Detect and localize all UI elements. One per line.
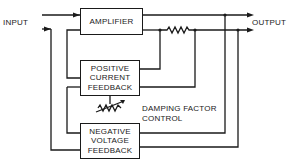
- amplifier-block: AMPLIFIER: [80, 8, 143, 35]
- damping-factor-label: DAMPING FACTOR CONTROL: [142, 104, 217, 123]
- diagram-wiring: [0, 0, 292, 165]
- pcf-line-1: POSITIVE: [91, 64, 130, 74]
- input-label: INPUT: [3, 18, 28, 28]
- negative-voltage-feedback-block: NEGATIVE VOLTAGE FEEDBACK: [80, 123, 140, 159]
- positive-current-feedback-block: POSITIVE CURRENT FEEDBACK: [80, 60, 140, 96]
- amplifier-label: AMPLIFIER: [89, 17, 133, 27]
- damping-line-1: DAMPING FACTOR: [142, 104, 217, 114]
- nvf-line-3: FEEDBACK: [88, 146, 133, 156]
- pcf-line-3: FEEDBACK: [88, 83, 133, 93]
- output-label: OUTPUT: [252, 18, 286, 28]
- pcf-line-2: CURRENT: [90, 73, 131, 83]
- damping-line-2: CONTROL: [142, 114, 217, 124]
- nvf-line-2: VOLTAGE: [91, 136, 129, 146]
- nvf-line-1: NEGATIVE: [89, 127, 130, 137]
